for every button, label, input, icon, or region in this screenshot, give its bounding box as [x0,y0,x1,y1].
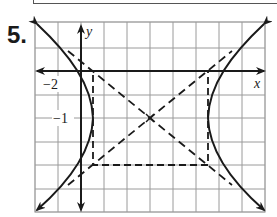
y-axis-label: y [84,24,93,39]
y-tick-label: −1 [53,111,68,126]
x-axis-label: x [253,76,261,91]
right-branch [208,24,264,210]
x-tick-label: −2 [43,77,58,92]
hyperbola-graph: −2 −1 x y [0,0,277,217]
